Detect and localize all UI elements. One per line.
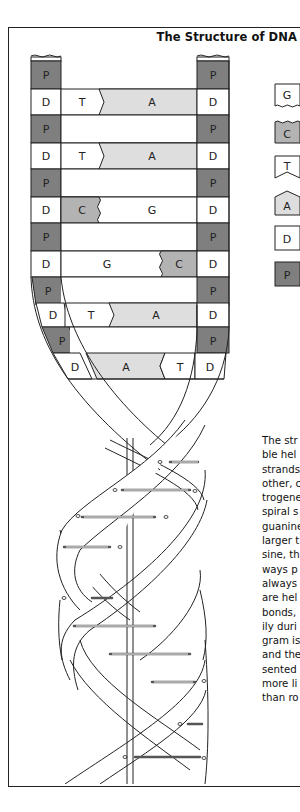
svg-text:D: D bbox=[209, 204, 217, 217]
label-P: P bbox=[43, 69, 50, 82]
svg-text:T: T bbox=[78, 150, 86, 163]
description-line: ily duri bbox=[262, 620, 300, 634]
description-line: sented bbox=[262, 663, 300, 677]
svg-text:T: T bbox=[78, 96, 86, 109]
svg-text:D: D bbox=[206, 361, 214, 374]
svg-text:P: P bbox=[284, 269, 291, 282]
svg-text:P: P bbox=[210, 177, 217, 190]
svg-text:P: P bbox=[210, 69, 217, 82]
description-line: are hel bbox=[262, 591, 300, 605]
svg-text:P: P bbox=[210, 231, 217, 244]
svg-text:P: P bbox=[210, 123, 217, 136]
description-line: more li bbox=[262, 677, 300, 691]
svg-text:D: D bbox=[71, 361, 79, 374]
legend bbox=[275, 84, 300, 286]
description-line: ble hel bbox=[262, 448, 300, 462]
svg-text:G: G bbox=[103, 258, 112, 271]
description-line: strands bbox=[262, 463, 300, 477]
svg-text:A: A bbox=[283, 200, 291, 213]
svg-text:D: D bbox=[209, 309, 217, 322]
svg-text:A: A bbox=[122, 361, 130, 374]
description-line: trogene bbox=[262, 491, 300, 505]
svg-text:G: G bbox=[148, 204, 157, 217]
dna-diagram: P P D T A D P P D T A D P P D C G D P P … bbox=[0, 0, 300, 812]
description-line: ways p bbox=[262, 563, 300, 577]
description-line: sine, th bbox=[262, 548, 300, 562]
description-line: spiral s bbox=[262, 505, 300, 519]
svg-text:P: P bbox=[43, 231, 50, 244]
description-text: The str ble hel strands other, c trogene… bbox=[262, 434, 300, 706]
svg-text:A: A bbox=[152, 309, 160, 322]
svg-text:D: D bbox=[42, 96, 50, 109]
description-line: than ro bbox=[262, 691, 300, 705]
description-line: always bbox=[262, 577, 300, 591]
svg-text:P: P bbox=[45, 285, 52, 298]
svg-text:A: A bbox=[148, 150, 156, 163]
svg-text:D: D bbox=[209, 258, 217, 271]
description-line: gram is bbox=[262, 634, 300, 648]
svg-text:P: P bbox=[210, 285, 217, 298]
svg-text:D: D bbox=[209, 150, 217, 163]
svg-text:D: D bbox=[283, 233, 291, 246]
svg-text:P: P bbox=[43, 177, 50, 190]
svg-text:C: C bbox=[283, 128, 291, 141]
svg-text:C: C bbox=[78, 204, 86, 217]
description-line: guanine bbox=[262, 520, 300, 534]
description-line: bonds, bbox=[262, 606, 300, 620]
svg-text:D: D bbox=[42, 204, 50, 217]
svg-text:A: A bbox=[148, 96, 156, 109]
svg-text:T: T bbox=[176, 361, 184, 374]
description-line: The str bbox=[262, 434, 300, 448]
svg-text:T: T bbox=[87, 309, 95, 322]
svg-text:T: T bbox=[283, 160, 291, 173]
svg-text:P: P bbox=[43, 123, 50, 136]
svg-text:D: D bbox=[42, 150, 50, 163]
description-line: other, c bbox=[262, 477, 300, 491]
svg-text:G: G bbox=[283, 89, 292, 102]
svg-text:D: D bbox=[42, 258, 50, 271]
description-line: larger t bbox=[262, 534, 300, 548]
svg-text:P: P bbox=[59, 335, 66, 348]
svg-text:P: P bbox=[210, 335, 217, 348]
svg-text:D: D bbox=[49, 309, 57, 322]
svg-text:C: C bbox=[175, 258, 183, 271]
description-line: and the bbox=[262, 648, 300, 662]
left-strand-cap bbox=[31, 55, 61, 61]
svg-text:D: D bbox=[209, 96, 217, 109]
right-strand-cap bbox=[197, 55, 229, 61]
